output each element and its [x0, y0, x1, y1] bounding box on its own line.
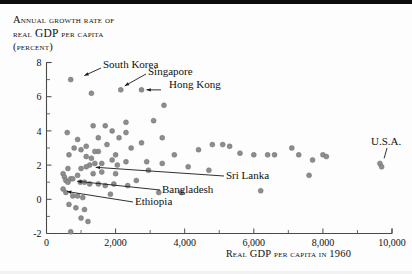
- data-point: [66, 202, 71, 207]
- x-axis-tick-label: 2,000: [104, 237, 127, 248]
- data-point: [68, 77, 73, 82]
- x-axis-title-mid: per capita in: [271, 248, 329, 259]
- x-axis-title-prefix: Real: [226, 248, 250, 259]
- data-point: [151, 118, 156, 123]
- data-point: [146, 168, 151, 173]
- data-point: [123, 159, 128, 164]
- x-axis-title-gdp: GDP: [250, 248, 272, 259]
- data-point: [84, 164, 89, 169]
- x-axis-tick-label: 4,000: [173, 237, 196, 248]
- data-point: [129, 146, 134, 151]
- data-point: [80, 195, 85, 200]
- figure-root: Annual growth rate of real GDP per capit…: [0, 0, 412, 274]
- data-point: [160, 135, 165, 140]
- data-point: [99, 169, 104, 174]
- data-point: [139, 87, 144, 92]
- data-point: [72, 146, 77, 151]
- annotation-arrowhead: [147, 88, 151, 91]
- data-point: [172, 152, 177, 157]
- data-point: [227, 144, 232, 149]
- y-axis-tick-label: 2: [37, 160, 42, 171]
- data-point: [75, 173, 80, 178]
- annotation-label-bangladesh: Bangladesh: [162, 183, 213, 195]
- data-point: [220, 142, 225, 147]
- data-point: [113, 171, 118, 176]
- annotation-label-usa: U.S.A.: [371, 135, 401, 147]
- data-point: [237, 151, 242, 156]
- data-point: [65, 166, 70, 171]
- data-point: [70, 176, 75, 181]
- data-point: [117, 135, 122, 140]
- data-point: [79, 147, 84, 152]
- data-point: [84, 154, 89, 159]
- annotation-label-singapore: Singapore: [148, 65, 193, 77]
- data-point: [110, 128, 115, 133]
- annotation-leader-line: [384, 148, 387, 158]
- data-point: [91, 123, 96, 128]
- data-point: [118, 87, 123, 92]
- data-point: [210, 142, 215, 147]
- data-point: [85, 219, 90, 224]
- x-axis-tick-label: 0: [44, 237, 49, 248]
- data-point: [125, 183, 130, 188]
- x-axis-tick-label: 10,000: [378, 237, 406, 248]
- data-point: [134, 178, 139, 183]
- x-axis-tick-label: 6,000: [243, 237, 266, 248]
- data-point: [379, 164, 384, 169]
- data-point: [79, 166, 84, 171]
- data-point: [68, 229, 73, 234]
- data-point: [66, 152, 71, 157]
- data-point: [82, 207, 87, 212]
- data-point: [307, 173, 312, 178]
- annotation-arrowhead: [84, 72, 89, 75]
- annotation-label-hong-kong: Hong Kong: [169, 78, 221, 90]
- annotation-arrowhead: [96, 166, 100, 169]
- y-axis-tick-label: 8: [37, 57, 42, 68]
- data-point: [91, 171, 96, 176]
- data-point: [324, 154, 329, 159]
- data-point: [89, 156, 94, 161]
- x-axis-title-year: 1960: [329, 248, 351, 259]
- y-axis-tick-label: 4: [37, 126, 42, 137]
- y-axis-tick-label: 0: [37, 194, 42, 205]
- annotation-label-ethiopia: Ethiopia: [135, 195, 172, 207]
- data-point: [296, 152, 301, 157]
- data-point: [115, 163, 120, 168]
- data-point: [79, 216, 84, 221]
- data-point: [265, 152, 270, 157]
- data-point: [75, 137, 80, 142]
- data-point: [251, 152, 256, 157]
- data-point: [99, 161, 104, 166]
- data-point: [310, 157, 315, 162]
- data-point: [139, 140, 144, 145]
- data-point: [289, 146, 294, 151]
- data-point: [196, 147, 201, 152]
- data-point: [123, 120, 128, 125]
- data-point: [144, 159, 149, 164]
- data-point: [108, 192, 113, 197]
- data-point: [206, 168, 211, 173]
- data-point: [75, 193, 80, 198]
- data-point: [89, 91, 94, 96]
- data-point: [92, 161, 97, 166]
- data-point: [96, 135, 101, 140]
- annotation-arrowhead: [125, 82, 130, 86]
- data-point: [104, 142, 109, 147]
- data-point: [70, 193, 75, 198]
- data-point: [113, 152, 118, 157]
- data-point: [63, 190, 68, 195]
- data-point: [160, 161, 165, 166]
- data-point: [161, 103, 166, 108]
- data-point: [84, 144, 89, 149]
- y-axis-tick-label: 6: [37, 91, 42, 102]
- annotation-label-sri-lanka: Sri Lanka: [226, 169, 269, 181]
- y-axis-tick-label: -2: [33, 228, 41, 239]
- data-point: [272, 152, 277, 157]
- data-point: [186, 164, 191, 169]
- data-point: [103, 123, 108, 128]
- data-point: [110, 157, 115, 162]
- data-points-group: [61, 77, 385, 234]
- data-point: [65, 130, 70, 135]
- data-point: [258, 188, 263, 193]
- data-point: [73, 205, 78, 210]
